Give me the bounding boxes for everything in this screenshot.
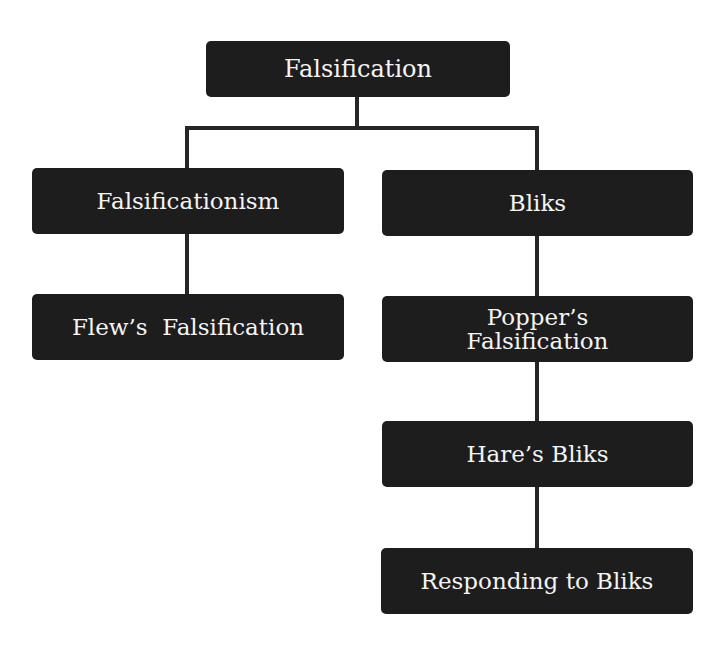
- node-responding-to-bliks: Responding to Bliks: [381, 548, 693, 614]
- connector-bliks-to-popper: [535, 234, 539, 298]
- connector-popper-to-hare: [535, 360, 539, 423]
- connector-to-falsificationism: [185, 126, 189, 170]
- connector-hare-to-responding: [535, 485, 539, 550]
- connector-root-down: [355, 96, 359, 129]
- node-flews-falsification: Flew’s Falsification: [32, 294, 344, 360]
- node-bliks: Bliks: [382, 170, 693, 236]
- connector-horizontal-bar: [185, 126, 539, 130]
- connector-to-bliks: [535, 126, 539, 172]
- node-poppers-falsification: Popper’s Falsification: [382, 296, 693, 362]
- node-hares-bliks: Hare’s Bliks: [382, 421, 693, 487]
- node-falsificationism: Falsificationism: [32, 168, 344, 234]
- node-falsification: Falsification: [206, 41, 510, 97]
- connector-falsificationism-to-flews: [185, 232, 189, 296]
